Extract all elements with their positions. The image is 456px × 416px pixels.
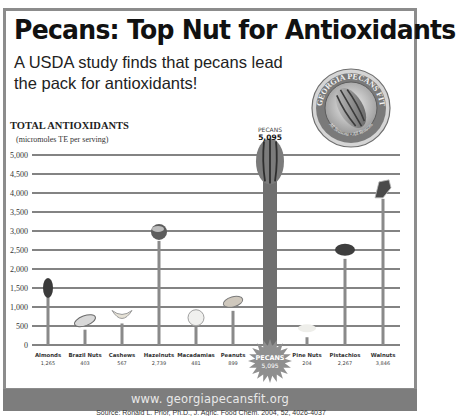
walnut-shape [375, 180, 391, 198]
macadamia-shape [188, 310, 204, 326]
y-tick-label: 1,500 [10, 284, 28, 293]
category-label: Walnuts [371, 352, 396, 358]
bars [47, 171, 385, 345]
value-label: 3,846 [376, 360, 390, 366]
y-tick-label: 4,000 [10, 189, 28, 198]
y-tick-label: 4,500 [10, 170, 28, 179]
pistachio-shape [335, 244, 355, 256]
hazelnut-highlight [152, 226, 164, 232]
cashew-shape [112, 310, 132, 318]
value-label: 403 [80, 360, 90, 366]
pecan-icon [256, 138, 284, 184]
y-tick-label: 1,000 [10, 303, 28, 312]
y-tick-label: 5,000 [10, 151, 28, 160]
url-band: www. georgiapecansfit.org [3, 389, 417, 411]
value-label: 481 [191, 360, 201, 366]
website-link[interactable]: www. georgiapecansfit.org [3, 392, 417, 406]
value-label: 2,267 [338, 360, 352, 366]
bar [306, 337, 309, 345]
value-label: 899 [228, 360, 238, 366]
bar [121, 323, 124, 345]
y-tick-label: 3,500 [10, 208, 28, 217]
value-label: 204 [302, 360, 312, 366]
category-label: Pistachios [329, 352, 360, 358]
category-label: Almonds [35, 352, 61, 358]
y-tick-labels: 05001,0001,5002,0002,5003,0003,5004,0004… [10, 151, 28, 350]
bar [382, 199, 385, 345]
category-label: Hazelnuts [144, 352, 174, 358]
y-tick-label: 2,000 [10, 265, 28, 274]
value-label: 567 [117, 360, 127, 366]
almond-shape [43, 278, 53, 298]
walnut-icon [375, 180, 391, 198]
hazelnut-icon [151, 224, 167, 240]
y-tick-label: 2,500 [10, 246, 28, 255]
value-label: 2,739 [152, 360, 166, 366]
y-tick-label: 500 [16, 322, 28, 331]
bar [195, 327, 198, 345]
bar [344, 259, 347, 345]
category-label: Peanuts [221, 352, 246, 358]
starburst-value: 5,095 [261, 362, 278, 369]
bar [84, 330, 87, 345]
nut-icons [43, 138, 391, 332]
category-label: Cashews [109, 352, 136, 358]
pine-nut-icon [298, 324, 316, 332]
category-labels: Almonds1,265Brazil Nuts403Cashews567Haze… [35, 352, 395, 366]
pistachio-icon [335, 244, 355, 256]
almond-icon [43, 278, 53, 298]
macadamia-icon [188, 310, 204, 326]
y-tick-label: 3,000 [10, 227, 28, 236]
bar-pecans [263, 171, 277, 345]
starburst-label: PECANS [255, 354, 284, 362]
bar [158, 241, 161, 345]
cashew-icon [112, 310, 132, 318]
category-label: Brazil Nuts [68, 352, 101, 358]
source-citation: Source: Ronald L. Prior, Ph.D., J. Agric… [0, 409, 422, 416]
category-label: Pine Nuts [292, 352, 321, 358]
pine-nut-shape [298, 324, 316, 332]
pecans-top-label: PECANS [258, 126, 282, 133]
category-label: Macadamias [177, 352, 215, 358]
pecans-top-value: 5,095 [258, 133, 282, 142]
value-label: 1,265 [41, 360, 55, 366]
bar [47, 297, 50, 345]
bar [232, 311, 235, 345]
y-tick-label: 0 [24, 341, 28, 350]
